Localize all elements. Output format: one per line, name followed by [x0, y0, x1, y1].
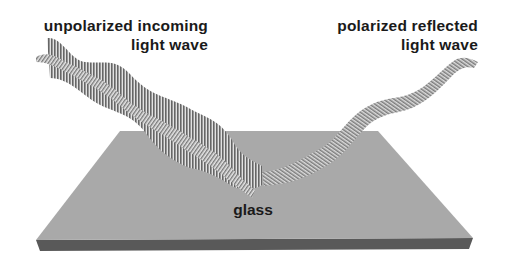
reflected-label-line-2: light wave: [280, 35, 478, 54]
glass-label: glass: [222, 201, 284, 219]
incoming-label-line-2: light wave: [0, 35, 208, 54]
reflected-label-line-1: polarized reflected: [280, 16, 478, 35]
glass-edge: [36, 238, 473, 251]
incoming-wave-label: unpolarized incoming light wave: [0, 16, 208, 54]
reflected-wave-label: polarized reflected light wave: [280, 16, 478, 54]
incoming-label-line-1: unpolarized incoming: [0, 16, 208, 35]
